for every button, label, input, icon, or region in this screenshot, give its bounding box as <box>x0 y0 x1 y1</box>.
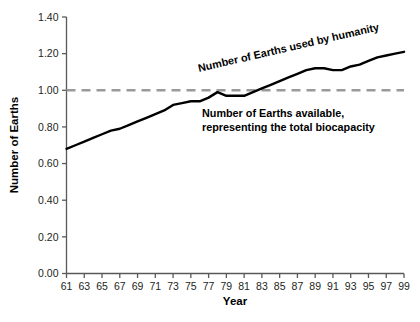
y-axis-tick-label: 0.80 <box>38 121 59 133</box>
x-axis-tick-label: 93 <box>345 280 357 292</box>
x-axis-tick-label: 97 <box>380 280 392 292</box>
x-axis-tick-label: 85 <box>274 280 286 292</box>
x-axis-tick-label: 81 <box>238 280 250 292</box>
x-axis-tick-label: 75 <box>185 280 197 292</box>
annotation-biocapacity-label-line1: Number of Earths available, <box>202 107 344 119</box>
x-axis-tick-label: 73 <box>167 280 179 292</box>
y-axis-tick-label: 0.00 <box>38 267 59 279</box>
y-axis-title: Number of Earths <box>8 97 20 194</box>
y-axis-tick-label: 1.00 <box>38 84 59 96</box>
y-axis-tick-label: 1.20 <box>38 47 59 59</box>
x-axis-tick-label: 63 <box>78 280 90 292</box>
x-axis-tick-label: 67 <box>114 280 126 292</box>
y-axis-tick-label: 0.20 <box>38 231 59 243</box>
x-axis-tick-label: 99 <box>398 280 410 292</box>
chart-container: 0.000.200.400.600.801.001.201.40 6163656… <box>0 0 420 322</box>
number-of-earths-line-chart: 0.000.200.400.600.801.001.201.40 6163656… <box>0 0 420 322</box>
x-axis-tick-label: 89 <box>309 280 321 292</box>
x-axis-title: Year <box>223 295 248 307</box>
x-axis-tick-label: 79 <box>221 280 233 292</box>
annotation-biocapacity-label-line2: representing the total biocapacity <box>202 121 375 133</box>
x-axis-tick-label: 87 <box>292 280 304 292</box>
x-axis-tick-label: 91 <box>327 280 339 292</box>
x-axis-tick-label: 71 <box>149 280 161 292</box>
x-axis-tick-label: 65 <box>96 280 108 292</box>
x-axis-tick-label: 83 <box>256 280 268 292</box>
y-axis-tick-label: 0.40 <box>38 194 59 206</box>
x-axis-tick-label: 95 <box>363 280 375 292</box>
x-axis-tick-label: 69 <box>132 280 144 292</box>
y-axis-tick-label: 0.60 <box>38 157 59 169</box>
y-axis-tick-label: 1.40 <box>38 11 59 23</box>
x-axis-tick-label: 61 <box>61 280 73 292</box>
x-axis-tick-label: 77 <box>203 280 215 292</box>
